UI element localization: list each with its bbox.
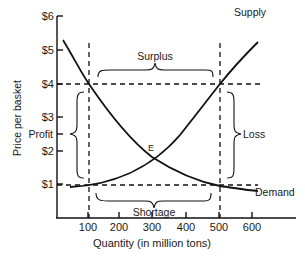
loss-label: Loss: [243, 128, 265, 140]
x-tick-labels: 100 200 300 400 500 600: [79, 221, 261, 233]
x-axis-title: Quantity (in million tons): [93, 237, 211, 249]
y-tick-5: $5: [42, 44, 54, 56]
equilibrium-label: E: [148, 143, 154, 153]
y-tick-labels: $6 $5 $4 $3 $2 $1: [42, 10, 54, 190]
y-axis-title: Price per basket: [11, 80, 23, 156]
y-tick-2: $2: [42, 145, 54, 157]
surplus-brace: [98, 63, 213, 77]
shortage-label: Shortage: [133, 206, 176, 218]
x-tick-600: 600: [243, 221, 261, 233]
loss-brace: [227, 92, 241, 178]
supply-demand-chart: $6 $5 $4 $3 $2 $1 Profit 100 200 300 400…: [0, 0, 305, 259]
supply-label: Supply: [234, 6, 267, 18]
x-tick-500: 500: [210, 221, 228, 233]
demand-curve: [63, 40, 258, 191]
surplus-label: Surplus: [137, 50, 173, 62]
demand-label: Demand: [255, 186, 295, 198]
y-tick-3: $3: [42, 111, 54, 123]
braces: [70, 63, 241, 208]
profit-label: Profit: [28, 128, 53, 140]
y-tick-6: $6: [42, 10, 54, 22]
x-tick-200: 200: [110, 221, 128, 233]
y-tick-4: $4: [42, 78, 54, 90]
x-tick-400: 400: [177, 221, 195, 233]
x-tick-100: 100: [79, 221, 97, 233]
profit-brace: [70, 92, 84, 178]
y-tick-1: $1: [42, 178, 54, 190]
x-tick-300: 300: [143, 221, 161, 233]
